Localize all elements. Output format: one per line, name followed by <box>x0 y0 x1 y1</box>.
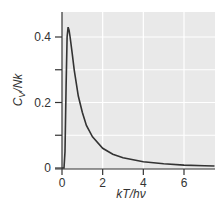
chart: 00.20.4 0246 kT/hν CV/Nk <box>0 0 221 215</box>
x-tick-label: 0 <box>59 176 66 190</box>
y-axis-label: CV/Nk <box>11 73 27 107</box>
x-axis-label: kT/hν <box>116 187 145 201</box>
y-axis-ticks: 00.20.4 <box>34 30 62 175</box>
x-tick-label: 6 <box>181 176 188 190</box>
x-tick-label: 2 <box>99 176 106 190</box>
y-tick-label: 0 <box>44 161 51 175</box>
plot-background <box>62 12 215 169</box>
y-tick-label: 0.2 <box>34 96 51 110</box>
y-tick-label: 0.4 <box>34 30 51 44</box>
